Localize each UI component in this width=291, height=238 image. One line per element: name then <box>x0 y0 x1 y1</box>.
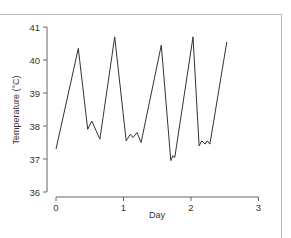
x-axis-label: Day <box>149 210 166 220</box>
x-tick-label: 0 <box>53 202 58 213</box>
x-tick-label: 1 <box>121 202 126 213</box>
y-tick-label: 40 <box>29 55 40 66</box>
y-tick-label: 41 <box>29 22 40 33</box>
y-axis-label: Temperature (°C) <box>11 75 21 144</box>
y-tick-label: 36 <box>29 187 40 198</box>
y-tick-label: 38 <box>29 121 40 132</box>
y-tick-label: 37 <box>29 154 40 165</box>
x-tick-label: 2 <box>188 202 193 213</box>
line-chart: 363738394041 0123 Day Temperature (°C) <box>0 0 291 238</box>
y-tick-label: 39 <box>29 88 40 99</box>
y-axis: 363738394041 <box>29 22 47 198</box>
x-tick-label: 3 <box>256 202 261 213</box>
temperature-line <box>56 37 227 161</box>
